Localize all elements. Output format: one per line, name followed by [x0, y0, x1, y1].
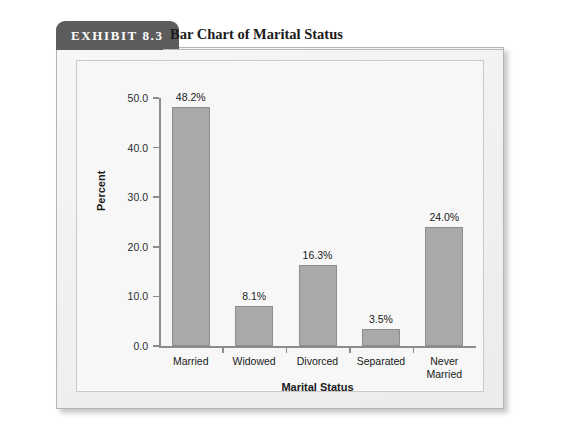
- x-axis-category-label-line: Widowed: [222, 355, 285, 368]
- x-axis-category-label: Married: [159, 355, 222, 368]
- y-axis-tick-label: 0.0: [133, 340, 148, 352]
- y-axis-title: Percent: [95, 171, 107, 211]
- bar-value-label: 48.2%: [176, 91, 206, 103]
- x-axis-category-label: NeverMarried: [413, 355, 476, 380]
- x-axis-category-label-line: Divorced: [286, 355, 349, 368]
- y-axis-tick: 20.0: [153, 246, 159, 248]
- bar-value-label: 8.1%: [242, 290, 266, 302]
- y-axis-tick: 30.0: [153, 196, 159, 198]
- y-axis-tick: 40.0: [153, 147, 159, 149]
- exhibit-title: Bar Chart of Marital Status: [170, 26, 343, 43]
- bar-value-label: 24.0%: [429, 211, 459, 223]
- y-axis-tick-label: 40.0: [128, 142, 148, 154]
- x-axis-category-label: Separated: [349, 355, 412, 368]
- chart-plot-area: Percent Marital Status 0.010.020.030.040…: [76, 60, 484, 392]
- x-axis-category-label-line: Married: [413, 368, 476, 381]
- bar: 48.2%: [172, 107, 210, 346]
- y-axis-tick: 0.0: [153, 345, 159, 347]
- x-axis-tick: [222, 347, 224, 353]
- y-axis-tick: 50.0: [153, 97, 159, 99]
- x-axis-tick: [349, 347, 351, 353]
- bar-value-label: 16.3%: [303, 249, 333, 261]
- bar: 16.3%: [299, 265, 337, 346]
- exhibit-figure: EXHIBIT 8.3 Bar Chart of Marital Status …: [0, 0, 588, 445]
- x-axis-tick: [413, 347, 415, 353]
- x-axis-category-label: Widowed: [222, 355, 285, 368]
- bar: 24.0%: [425, 227, 463, 346]
- x-axis-category-label: Divorced: [286, 355, 349, 368]
- y-axis-line: [159, 98, 161, 347]
- x-axis-title: Marital Status: [159, 381, 476, 393]
- y-axis-tick: 10.0: [153, 296, 159, 298]
- header-divider: [163, 49, 504, 50]
- x-axis-category-label-line: Married: [159, 355, 222, 368]
- x-axis-category-label-line: Never: [413, 355, 476, 368]
- y-axis-tick-label: 50.0: [128, 92, 148, 104]
- x-axis-tick: [286, 347, 288, 353]
- bar-value-label: 3.5%: [369, 313, 393, 325]
- y-axis-tick-label: 20.0: [128, 241, 148, 253]
- y-axis-tick-label: 10.0: [128, 290, 148, 302]
- x-axis-category-label-line: Separated: [349, 355, 412, 368]
- bar: 3.5%: [362, 329, 400, 346]
- exhibit-number-tab: EXHIBIT 8.3: [56, 21, 179, 50]
- exhibit-number-label: EXHIBIT 8.3: [71, 28, 164, 44]
- x-axis-line: [159, 346, 476, 348]
- y-axis-tick-label: 30.0: [128, 191, 148, 203]
- bar: 8.1%: [235, 306, 273, 346]
